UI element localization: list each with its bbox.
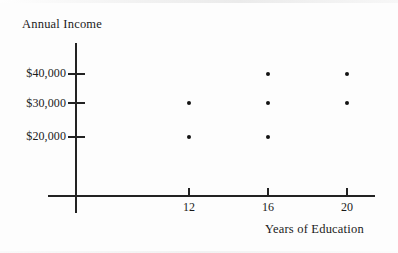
x-axis-tick-12 [188,188,190,197]
y-axis-label-30000: $30,000 [26,96,66,111]
data-point [345,101,349,105]
y-axis-label-40000: $40,000 [26,66,66,81]
x-axis-title: Years of Education [265,222,364,237]
y-axis-tick-40000 [68,73,85,75]
x-axis-label-16: 16 [248,200,288,215]
x-axis-line [48,195,375,197]
scatter-plot-figure: Annual Income $40,000 $30,000 $20,000 12… [0,0,398,253]
x-axis-tick-20 [346,188,348,197]
data-point [187,101,191,105]
data-point [345,72,349,76]
data-point [266,101,270,105]
y-axis-tick-30000 [68,102,85,104]
x-axis-label-20: 20 [327,200,367,215]
data-point [187,135,191,139]
y-axis-tick-20000 [68,136,85,138]
y-axis-title: Annual Income [22,17,102,32]
y-axis-label-20000: $20,000 [26,129,66,144]
data-point [266,135,270,139]
x-axis-tick-16 [267,188,269,197]
y-axis-line [75,43,77,213]
data-point [266,72,270,76]
x-axis-label-12: 12 [169,200,209,215]
